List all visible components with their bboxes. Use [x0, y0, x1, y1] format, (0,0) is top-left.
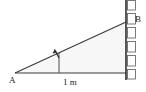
vertex-label-b: B — [135, 15, 141, 24]
base-dimension-label: 1 m — [63, 78, 77, 87]
geometry-figure: A B 1 m — [0, 0, 146, 92]
brick — [128, 28, 136, 39]
brick — [128, 42, 136, 53]
brick — [128, 1, 136, 11]
brick — [128, 56, 136, 67]
brick-group — [128, 1, 136, 80]
brick — [128, 70, 136, 80]
vertex-label-a: A — [9, 76, 16, 85]
